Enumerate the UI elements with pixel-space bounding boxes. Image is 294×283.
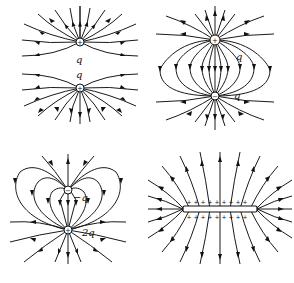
field-lines-upper [22,6,138,56]
field-lines-lower [22,74,138,124]
label-2q: 2q [81,227,95,238]
svg-text:+: + [77,85,83,93]
charge-negative-q: − [64,186,72,195]
label-dipole-negative-q: q [234,90,240,101]
svg-text:+: + [207,213,212,220]
svg-text:+: + [214,213,219,220]
plate-plus-signs-top: + + + + + + + + + [186,198,247,205]
plate-plus-signs-bottom: + + + + + + + + + [186,213,247,220]
unequal-field-lines [10,154,126,264]
charge-negative: − [211,92,219,101]
svg-text:+: + [200,213,205,220]
panel-charged-plate: + + + + + + + + + + + + + + + + + + [148,152,292,264]
charge-2q: + [64,226,72,235]
electric-field-lines-figure: + q q + [0,0,294,283]
svg-text:+: + [221,198,226,205]
charge-lower-positive: + [76,84,84,93]
label-minus-q: −q [73,192,88,203]
svg-text:+: + [65,227,71,235]
charge-positive: + [210,35,220,45]
dipole-field-lines [156,6,274,130]
charge-upper-positive: + [76,38,84,47]
svg-text:+: + [221,213,226,220]
svg-text:+: + [235,198,240,205]
svg-text:+: + [200,198,205,205]
svg-text:+: + [186,198,191,205]
panel-two-positive-charges: + q q + [22,6,138,124]
svg-text:+: + [193,213,198,220]
svg-text:+: + [242,213,247,220]
svg-text:+: + [242,198,247,205]
svg-text:+: + [207,198,212,205]
svg-text:+: + [186,213,191,220]
svg-text:+: + [228,198,233,205]
panel-dipole: + q − q [156,6,274,130]
svg-text:+: + [212,37,218,45]
svg-text:+: + [228,213,233,220]
label-dipole-positive-q: q [236,51,242,62]
svg-text:−: − [212,93,218,101]
panel-unequal-charges: − −q + 2q [10,154,126,264]
svg-text:+: + [235,213,240,220]
label-upper-q: q [76,54,82,65]
svg-text:+: + [214,198,219,205]
svg-text:−: − [65,187,71,195]
svg-text:+: + [77,39,83,47]
svg-text:+: + [193,198,198,205]
charged-plate [183,206,257,212]
label-lower-q: q [76,69,82,80]
